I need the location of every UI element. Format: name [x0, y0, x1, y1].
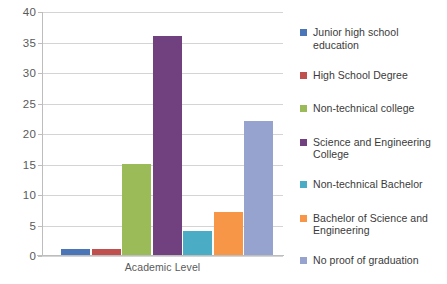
legend-swatch-icon [300, 29, 307, 36]
bar[interactable] [244, 121, 273, 255]
legend-item-label: Non-technical college [313, 102, 414, 115]
legend-swatch-icon [300, 257, 307, 264]
legend-item[interactable]: Non-technical college [300, 102, 414, 115]
bar-chart: 0510152025303540 Academic Level Junior h… [0, 0, 447, 284]
plot-area [42, 12, 283, 256]
legend-item-label: Bachelor of Science and Engineering [313, 212, 445, 237]
legend-item[interactable]: Bachelor of Science and Engineering [300, 212, 445, 237]
legend-item[interactable]: No proof of graduation [300, 254, 419, 267]
y-axis-tick-label: 10 [23, 189, 36, 201]
gridline [42, 256, 283, 257]
bar[interactable] [214, 212, 243, 255]
legend-item[interactable]: Science and Engineering College [300, 136, 445, 161]
y-axis-tick-mark [38, 256, 42, 257]
legend-swatch-icon [300, 72, 307, 79]
y-axis-tick-label: 30 [23, 67, 36, 79]
legend-swatch-icon [300, 181, 307, 188]
y-axis-tick-label: 20 [23, 128, 36, 140]
legend-item[interactable]: Junior high school education [300, 26, 445, 51]
bar[interactable] [61, 249, 90, 255]
legend-item[interactable]: Non-technical Bachelor [300, 178, 423, 191]
plot-wrapper: 0510152025303540 Academic Level [0, 0, 292, 284]
legend-item-label: High School Degree [313, 69, 408, 82]
legend-swatch-icon [300, 105, 307, 112]
y-axis-tick-label: 0 [29, 250, 36, 262]
legend-item-label: Junior high school education [313, 26, 445, 51]
legend-item[interactable]: High School Degree [300, 69, 408, 82]
y-axis-tick-label: 15 [23, 159, 36, 171]
legend-item-label: No proof of graduation [313, 254, 419, 267]
bar-series [43, 12, 283, 255]
bar[interactable] [122, 164, 151, 255]
legend-swatch-icon [300, 139, 307, 146]
bar[interactable] [153, 36, 182, 255]
y-axis-tick-label: 40 [23, 6, 36, 18]
x-axis-title: Academic Level [42, 261, 283, 273]
bar[interactable] [183, 231, 212, 255]
legend-item-label: Science and Engineering College [313, 136, 445, 161]
legend-swatch-icon [300, 215, 307, 222]
bar[interactable] [92, 249, 121, 255]
x-axis-line [37, 255, 284, 256]
y-axis-tick-label: 35 [23, 37, 36, 49]
y-axis-tick-label: 5 [29, 220, 36, 232]
y-axis-tick-labels: 0510152025303540 [0, 12, 36, 256]
y-axis-tick-label: 25 [23, 98, 36, 110]
legend-item-label: Non-technical Bachelor [313, 178, 423, 191]
